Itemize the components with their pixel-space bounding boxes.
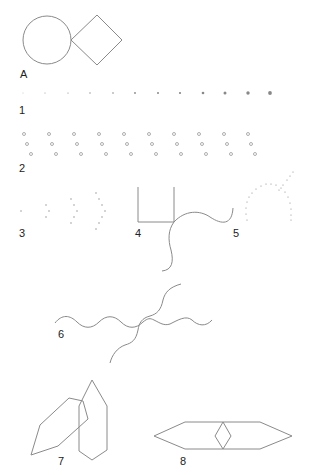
- center-diamond: [215, 422, 231, 449]
- label-5: 5: [233, 228, 239, 239]
- label-a: A: [20, 69, 27, 80]
- figure-6-wavy-lines: [55, 284, 212, 363]
- wavy-curve: [162, 208, 233, 271]
- label-6: 6: [58, 329, 64, 340]
- figure-3-dot-arcs: [20, 192, 105, 229]
- horizontal-hexagon: [154, 422, 292, 449]
- label-7: 7: [58, 456, 64, 467]
- figure-5-dotted-arch: [245, 171, 293, 220]
- figure-2-rings: [23, 133, 257, 156]
- horizontal-wave: [55, 317, 212, 328]
- figure-4: [138, 187, 233, 271]
- figure-1-dots: [23, 91, 272, 95]
- figure-8-hexagon-diamond: [154, 422, 292, 449]
- circle-shape: [23, 16, 71, 64]
- figure-a: [23, 15, 122, 65]
- label-1: 1: [19, 105, 25, 116]
- diamond-shape: [71, 15, 122, 65]
- gestalt-figures-canvas: [0, 0, 309, 475]
- label-8: 8: [180, 456, 186, 467]
- u-shape: [138, 187, 174, 222]
- figure-7-hexagons: [31, 380, 107, 460]
- label-3: 3: [19, 228, 25, 239]
- label-4: 4: [135, 228, 141, 239]
- upright-hexagon: [79, 380, 107, 460]
- label-2: 2: [19, 163, 25, 174]
